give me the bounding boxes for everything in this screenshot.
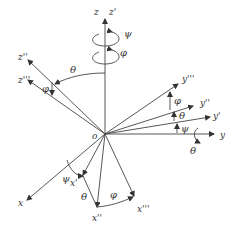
y1-label: y' xyxy=(212,111,221,121)
y3-axis xyxy=(105,84,178,134)
diagram-canvas: z z' z'' z''' y y' y'' y''' x x' x'' x''… xyxy=(0,0,235,225)
euler-angle-diagram: z z' z'' z''' y y' y'' y''' x x' x'' x''… xyxy=(0,0,235,225)
theta-rot-y-label: θ xyxy=(190,145,196,156)
theta-top-label: θ xyxy=(70,64,76,75)
x-axis xyxy=(27,134,105,200)
z3-label: z''' xyxy=(17,75,30,85)
y3-label: y''' xyxy=(181,74,195,84)
x-label: x xyxy=(18,198,23,208)
psi-y-label: ψ xyxy=(181,123,189,134)
psi-x-label: ψ xyxy=(62,173,70,184)
z1-label: z' xyxy=(108,7,116,17)
psi-top-label: ψ xyxy=(124,28,132,39)
z-label: z xyxy=(93,7,99,17)
theta-x-label: θ xyxy=(81,191,87,202)
z3-axis xyxy=(28,80,105,134)
y-label: y xyxy=(219,130,226,140)
z2-axis xyxy=(28,60,105,134)
phi-z-label: φ xyxy=(42,83,49,94)
phi-x-label: φ xyxy=(110,189,117,200)
x2-label: x'' xyxy=(92,213,102,223)
theta-arc xyxy=(55,73,105,84)
origin-label: o xyxy=(92,131,98,141)
y1-axis xyxy=(105,117,210,134)
x3-label: x''' xyxy=(137,204,150,214)
x1-label: x' xyxy=(70,178,78,188)
z2-label: z'' xyxy=(17,52,28,62)
theta-y-label: θ xyxy=(179,110,185,121)
x3-axis xyxy=(105,134,134,196)
phi-rotation-icon xyxy=(93,50,119,64)
phi-top-label: φ xyxy=(120,47,127,58)
phi-y-label: φ xyxy=(174,95,181,106)
y2-label: y'' xyxy=(199,98,210,108)
x2-axis xyxy=(97,134,105,207)
psi-rotation-icon xyxy=(93,32,119,46)
theta-rotation-y-icon xyxy=(194,128,200,143)
